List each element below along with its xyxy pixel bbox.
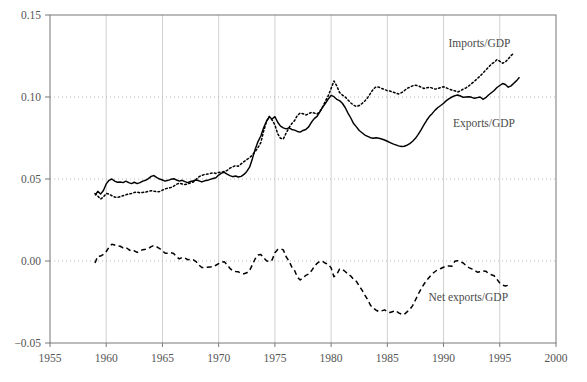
chart-figure: −0.050.000.050.100.15 195519601965197019… [0,0,587,382]
x-tick-label: 1975 [263,352,286,364]
x-tick-label: 1960 [95,352,118,364]
y-tick-label: −0.05 [14,337,41,349]
chart-background [0,0,587,382]
x-tick-label: 1990 [432,352,455,364]
y-tick-label: 0.00 [21,255,41,267]
y-tick-label: 0.15 [21,9,41,21]
x-tick-label: 2000 [545,352,568,364]
annotation-imports: Imports/GDP [449,37,511,50]
x-tick-label: 1965 [151,352,174,364]
line-chart-svg: −0.050.000.050.100.15 195519601965197019… [0,0,587,382]
y-tick-label: 0.05 [21,173,41,185]
x-tick-label: 1985 [376,352,399,364]
x-tick-label: 1995 [488,352,511,364]
x-tick-label: 1955 [39,352,62,364]
x-tick-label: 1980 [320,352,343,364]
x-tick-label: 1970 [207,352,230,364]
y-tick-label: 0.10 [21,91,41,103]
annotation-net-exports: Net exports/GDP [429,291,509,304]
annotation-exports: Exports/GDP [453,117,515,130]
